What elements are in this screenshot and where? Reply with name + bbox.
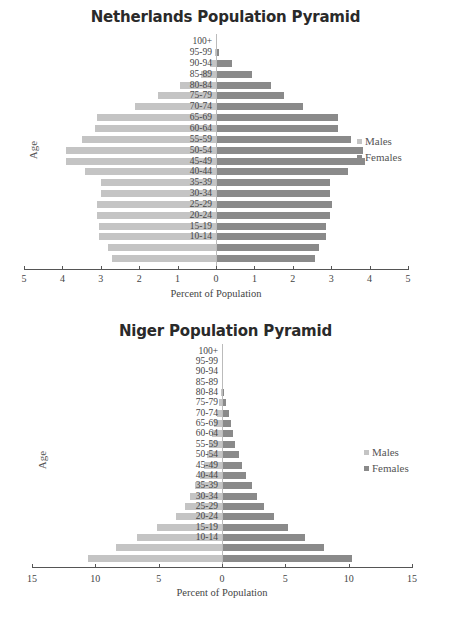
age-group-label: 35-39 [178, 480, 218, 490]
legend: Males Females [364, 444, 409, 476]
male-bar [116, 544, 222, 551]
age-group-label: 55-59 [178, 439, 218, 449]
age-group-label: 60-64 [178, 428, 218, 438]
age-group-label: 75-79 [178, 397, 218, 407]
female-bar [223, 534, 305, 541]
x-axis-tick [349, 564, 350, 568]
female-bar [223, 451, 239, 458]
age-group-label: 25-29 [178, 501, 218, 511]
female-bar [223, 503, 264, 510]
legend-item-males: Males [364, 444, 409, 460]
age-group-label: 85-89 [178, 377, 218, 387]
female-bar [223, 555, 352, 562]
female-bar [223, 389, 224, 396]
x-axis-tick [285, 564, 286, 568]
legend-label: Females [372, 462, 409, 474]
female-bar [223, 410, 229, 417]
male-bar [219, 399, 222, 406]
male-bar [88, 555, 222, 562]
age-group-label: 30-34 [178, 491, 218, 501]
x-axis-tick [412, 564, 413, 568]
age-group-label: 45-49 [178, 460, 218, 470]
x-tick-label: 5 [275, 573, 295, 584]
legend-item-females: Females [364, 460, 409, 476]
x-tick-label: 10 [339, 573, 359, 584]
female-bar [223, 482, 252, 489]
male-bar [221, 389, 222, 396]
female-bar [223, 524, 288, 531]
female-bar [223, 441, 235, 448]
niger-pyramid-chart: Niger Population Pyramid Age 10-1415-192… [0, 0, 451, 625]
female-bar [223, 462, 242, 469]
age-group-label: 40-44 [178, 470, 218, 480]
x-tick-label: 15 [402, 573, 422, 584]
x-tick-label: 10 [85, 573, 105, 584]
females-swatch-icon [364, 466, 369, 471]
chart-title: Niger Population Pyramid [0, 322, 451, 340]
female-bar [223, 399, 226, 406]
x-tick-label: 5 [149, 573, 169, 584]
x-tick-label: 15 [22, 573, 42, 584]
age-group-label: 95-99 [178, 356, 218, 366]
female-bar [223, 513, 274, 520]
legend-label: Males [372, 446, 399, 458]
female-bar [223, 544, 324, 551]
age-group-label: 65-69 [178, 418, 218, 428]
female-bar [223, 493, 257, 500]
males-swatch-icon [364, 450, 369, 455]
x-axis-tick [95, 564, 96, 568]
x-axis-tick [222, 564, 223, 568]
age-group-label: 100+ [178, 346, 218, 356]
x-tick-label: 0 [212, 573, 232, 584]
age-group-label: 20-24 [178, 511, 218, 521]
age-group-label: 90-94 [178, 366, 218, 376]
female-bar [223, 420, 231, 427]
x-axis-tick [32, 564, 33, 568]
age-group-label: 10-14 [178, 532, 218, 542]
age-group-label: 15-19 [178, 522, 218, 532]
female-bar [223, 472, 246, 479]
age-group-label: 70-74 [178, 408, 218, 418]
age-group-label: 50-54 [178, 449, 218, 459]
x-axis-tick [159, 564, 160, 568]
female-bar [223, 430, 233, 437]
age-group-label: 80-84 [178, 387, 218, 397]
y-axis-label: Age [36, 451, 48, 469]
x-axis-label: Percent of Population [122, 587, 322, 598]
